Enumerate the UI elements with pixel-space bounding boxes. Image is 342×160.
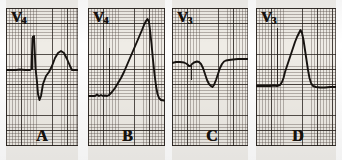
panel-letter-d: D — [292, 127, 304, 145]
panel-letter-a: A — [36, 127, 48, 145]
ecg-panel-c: V3 C — [172, 8, 248, 146]
ecg-trace-d — [256, 8, 336, 146]
gutter-left — [0, 0, 6, 160]
gutter-bc — [165, 0, 172, 160]
ecg-trace-b — [88, 8, 165, 146]
gutter-cd — [248, 0, 256, 160]
ecg-panel-a: V4 A — [6, 8, 78, 146]
ecg-figure: V4 A V4 B V3 C — [0, 0, 342, 160]
gutter-ab — [78, 0, 88, 160]
panel-letter-c: C — [206, 127, 218, 145]
gutter-right — [336, 0, 342, 160]
ecg-trace-a — [6, 8, 78, 146]
ecg-panel-d: V3 D — [256, 8, 336, 146]
panel-letter-b: B — [122, 127, 133, 145]
ecg-panel-b: V4 B — [88, 8, 165, 146]
ecg-trace-c — [172, 8, 248, 146]
